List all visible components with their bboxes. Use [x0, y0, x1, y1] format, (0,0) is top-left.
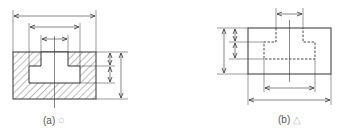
caption-b: (b) △ — [278, 114, 301, 125]
figure-a — [13, 10, 128, 108]
figure-b — [217, 8, 331, 105]
caption-a: (a) ○ — [43, 114, 65, 126]
caption-a-label: (a) — [43, 115, 55, 126]
triangle-icon: △ — [293, 114, 301, 125]
caption-b-label: (b) — [278, 114, 290, 125]
circle-icon: ○ — [58, 114, 65, 126]
